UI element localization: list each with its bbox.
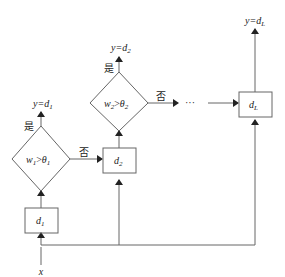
yes-label-1: 是 <box>24 121 34 132</box>
condition-1-label: w1>θ1 <box>26 154 50 167</box>
input-label: x <box>38 266 44 277</box>
output-L-label: y=dL <box>244 15 265 28</box>
no-label-2: 否 <box>156 91 166 102</box>
no-label-1: 否 <box>79 147 89 158</box>
cascade-flowchart: x d1 d2 dL w1>θ1 w2>θ2 是 是 否 否 ··· y=d1 … <box>0 0 285 277</box>
yes-label-2: 是 <box>104 63 114 74</box>
d2-label: d2 <box>114 155 123 168</box>
output-1-label: y=d1 <box>32 98 53 111</box>
dL-label: dL <box>249 99 258 112</box>
output-2-label: y=d2 <box>110 42 131 55</box>
ellipsis: ··· <box>185 97 195 108</box>
condition-2-label: w2>θ2 <box>104 98 129 111</box>
d1-label: d1 <box>36 215 45 228</box>
